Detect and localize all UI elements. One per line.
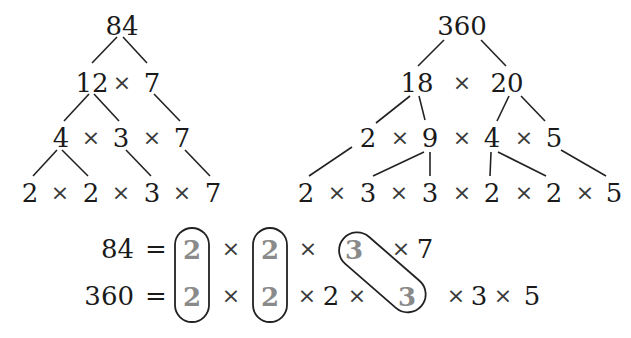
times-sign: × [390,180,408,205]
tree-360-leaf: 2 [484,178,501,208]
times-sign: × [453,70,471,95]
highlighted-factor: 2 [261,235,279,265]
highlighted-factor: 2 [183,235,201,265]
tree-360-leaf: 3 [360,178,377,208]
highlighted-factor: 2 [183,282,201,312]
tree-360-node: 9 [422,123,439,153]
tree-84-node: 4 [53,123,70,153]
tree-360-node: 5 [546,123,563,153]
times-sign: × [447,283,465,308]
times-sign: × [348,283,366,308]
edge [309,147,352,176]
edge [33,150,57,176]
times-sign: × [222,283,240,308]
edge [481,40,506,66]
edge [497,96,509,121]
times-sign: × [576,180,594,205]
tree-84-leaf: 7 [205,178,222,208]
times-sign: × [82,125,100,150]
tree-360-node: 18 [400,68,433,98]
equation-lhs-84: 84 [101,234,134,264]
edge [419,96,425,120]
tree-84-root: 84 [105,11,138,41]
factor-tree-84: 84 12 × 7 4 × 3 × 7 2 × 2 × 3 × 7 [22,11,222,208]
tree-360-node: 4 [484,123,501,153]
tree-84-node: 12 [75,68,108,98]
factor: 2 [323,281,340,311]
tree-360-node: 20 [490,68,523,98]
highlighted-factor: 3 [398,282,416,312]
edge [376,96,410,123]
diagram-svg: 84 12 × 7 4 × 3 × 7 2 × 2 × 3 × 7 360 18… [0,0,631,338]
highlighted-factor: 3 [345,235,363,265]
factor: 5 [524,281,541,311]
times-sign: × [515,125,533,150]
tree-84-node: 7 [174,123,191,153]
tree-360-leaf: 2 [546,178,563,208]
times-sign: × [112,180,130,205]
times-sign: × [113,70,131,95]
tree-84-node: 3 [113,123,130,153]
times-sign: × [173,180,191,205]
times-sign: × [299,236,317,261]
edge [64,94,89,121]
tree-360-leaf: 2 [298,178,315,208]
times-sign: × [298,283,316,308]
highlighted-factor: 2 [261,282,279,312]
equals-sign: = [145,281,167,311]
times-sign: × [515,180,533,205]
tree-360-root: 360 [437,11,487,41]
tree-84-leaf: 2 [22,178,39,208]
edge [126,150,151,176]
edge [94,94,119,121]
times-sign: × [143,125,161,150]
times-sign: × [453,125,471,150]
factorization-equations: 84 = 2 × 2 × 3 × 7 360 = 2 × 2 × 2 × 3 ×… [84,225,540,322]
edge [418,40,444,66]
edge [498,152,546,176]
times-sign: × [453,180,471,205]
factor-tree-360: 360 18 × 20 2 × 9 × 4 × 5 2 × 3 × 3 × 2 … [298,11,623,208]
factor: 3 [471,281,488,311]
tree-84-node: 7 [144,68,161,98]
factor: 7 [417,234,434,264]
equals-sign: = [145,234,167,264]
tree-84-leaf: 3 [144,178,161,208]
times-sign: × [494,283,512,308]
tree-360-leaf: 3 [422,178,439,208]
prime-factorization-diagram: 84 12 × 7 4 × 3 × 7 2 × 2 × 3 × 7 360 18… [0,0,631,338]
times-sign: × [222,236,240,261]
tree-84-leaf: 2 [83,178,100,208]
edge [185,150,210,176]
edge [521,96,545,121]
edge [62,150,88,176]
times-sign: × [51,180,69,205]
tree-360-node: 2 [360,123,377,153]
times-sign: × [392,236,410,261]
times-sign: × [328,180,346,205]
edge [154,94,180,121]
equation-lhs-360: 360 [84,281,134,311]
edge [373,152,424,176]
times-sign: × [391,125,409,150]
edge [561,150,606,176]
tree-360-leaf: 5 [606,178,623,208]
edge [490,152,491,176]
